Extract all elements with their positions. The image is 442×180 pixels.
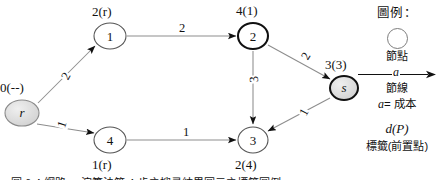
legend-node-caption: 節點 [352, 50, 442, 63]
legend-dp-symbol: d(P) [352, 121, 442, 137]
node-label-4: 1(r) [92, 157, 112, 173]
legend-node-icon [387, 28, 408, 49]
node-s-glyph: s [341, 80, 346, 95]
legend-panel: 圖例： 節點 a 節線 a= 成本 d(P) 標籤(前置點) [352, 2, 442, 153]
edge-cost-2-3: 3 [247, 74, 260, 84]
diagram-canvas: r 1 4 2 3 s 0(--) 2(r) 1(r) 4(1) 2(4) 3(… [0, 0, 442, 180]
node-label-2: 4(1) [236, 3, 258, 19]
node-1-glyph: 1 [107, 29, 114, 44]
legend-cost-text: = 成本 [384, 98, 416, 110]
node-label-s: 3(3) [325, 57, 347, 73]
node-label-3: 2(4) [235, 157, 257, 173]
node-label-r: 0(--) [0, 80, 24, 96]
legend-title: 圖例： [352, 2, 442, 21]
caption-text: 圖 6-4 網路 ... 演算法第 4 步之搜尋結果圖示之標籤圖例 [11, 177, 281, 180]
legend-edge-symbol: a [392, 65, 400, 80]
edge-cost-4-3: 1 [182, 126, 190, 139]
legend-edge-caption: 節線 [352, 82, 442, 95]
node-label-1: 2(r) [92, 4, 112, 20]
node-3-glyph: 3 [250, 133, 257, 148]
edge-cost-1-2: 2 [178, 22, 186, 35]
figure-caption: 圖 6-4 網路 ... 演算法第 4 步之搜尋結果圖示之標籤圖例 [0, 174, 348, 180]
node-4-glyph: 4 [107, 133, 114, 148]
legend-dp-caption: 標籤(前置點) [352, 137, 442, 153]
legend-cost-note: a= 成本 [352, 95, 442, 112]
legend-edge-icon: a [352, 67, 442, 82]
edge-2-s [268, 45, 330, 79]
node-2-glyph: 2 [250, 29, 257, 44]
